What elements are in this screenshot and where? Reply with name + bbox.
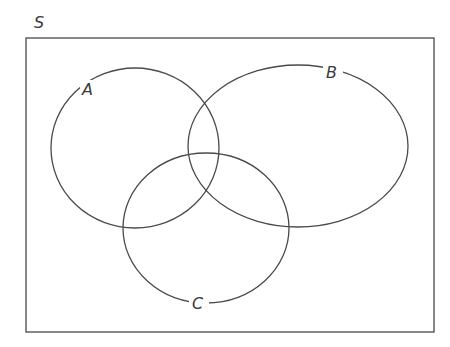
venn-diagram: S A B C [0,0,450,347]
universe-label: S [34,13,44,32]
set-b-label: B [326,63,337,82]
set-c-ellipse [123,153,289,303]
set-a-label: A [81,80,93,99]
set-c-label: C [192,294,204,313]
set-a-ellipse [51,68,219,228]
set-b-ellipse [188,65,408,227]
